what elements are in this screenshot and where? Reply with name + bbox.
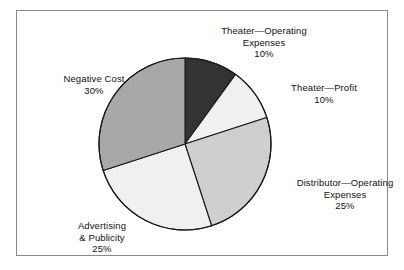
slice-label-percent: 25% [47, 243, 157, 255]
slice-label-percent: 10% [199, 48, 329, 60]
slice-label-advertising-publicity: Advertising & Publicity 25% [47, 220, 157, 255]
slice-label-line-2: Expenses [275, 189, 404, 201]
slice-label-negative-cost: Negative Cost 30% [39, 73, 149, 96]
slice-label-line-1: Theater—Operating [199, 25, 329, 37]
slice-label-percent: 30% [39, 85, 149, 97]
slice-label-distributor-operating-expenses: Distributor—Operating Expenses 25% [275, 177, 404, 212]
slice-label-percent: 25% [275, 200, 404, 212]
slice-label-line-2: & Publicity [47, 232, 157, 244]
slice-label-line-1: Advertising [47, 220, 157, 232]
slice-label-theater-profit: Theater—Profit 10% [269, 82, 379, 105]
chart-frame-border: Theater—Operating Expenses 10% Theater—P… [16, 10, 388, 256]
slice-label-theater-operating-expenses: Theater—Operating Expenses 10% [199, 25, 329, 60]
slice-label-line-1: Distributor—Operating [275, 177, 404, 189]
slice-label-line-1: Negative Cost [39, 73, 149, 85]
figure-canvas: Theater—Operating Expenses 10% Theater—P… [0, 0, 404, 270]
slice-label-line-1: Theater—Profit [269, 82, 379, 94]
slice-label-percent: 10% [269, 94, 379, 106]
slice-label-line-2: Expenses [199, 37, 329, 49]
